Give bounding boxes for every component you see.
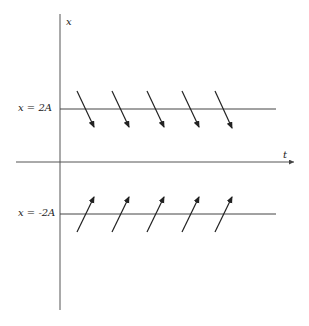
t-axis-label: t bbox=[283, 149, 287, 160]
phase-diagram bbox=[0, 0, 309, 326]
level-label-2a: x = 2A bbox=[18, 102, 52, 113]
level-label-neg2a: x = -2A bbox=[18, 207, 55, 218]
x-axis-label: x bbox=[66, 16, 72, 27]
